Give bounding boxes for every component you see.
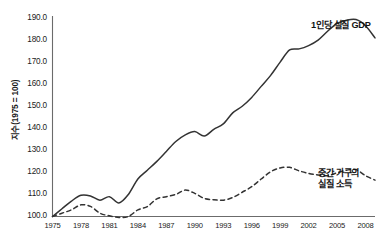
- y-axis-tick-label: 140.0: [17, 123, 47, 132]
- series-annotation-income-line2: 실질 소득: [318, 179, 359, 190]
- x-axis-tick-label: 2008: [353, 221, 379, 230]
- y-axis-tick-label: 170.0: [17, 57, 47, 66]
- x-axis-tick-label: 1975: [40, 221, 66, 230]
- series-annotation-income: 중간 가구의 실질 소득: [318, 168, 359, 189]
- x-axis-tick-label: 1990: [182, 221, 208, 230]
- series-annotation-gdp-text: 1인당 실질 GDP: [311, 20, 371, 30]
- x-axis-tick-label: 1984: [125, 221, 151, 230]
- x-axis-tick-label: 1987: [153, 221, 179, 230]
- x-axis-tick-label: 2002: [296, 221, 322, 230]
- series-annotation-income-line1: 중간 가구의: [318, 168, 359, 179]
- x-axis-tick-label: 1999: [267, 221, 293, 230]
- y-axis-tick-label: 190.0: [17, 13, 47, 22]
- y-axis-tick-label: 100.0: [17, 211, 47, 220]
- x-axis-tick-label: 1981: [96, 221, 122, 230]
- x-axis-tick-label: 1978: [68, 221, 94, 230]
- y-axis-tick-label: 150.0: [17, 101, 47, 110]
- x-axis-tick-label: 1996: [239, 221, 265, 230]
- x-axis-tick-label: 2005: [324, 221, 350, 230]
- x-axis-tick-label: 1993: [210, 221, 236, 230]
- y-axis-title: 지수(1975 = 100): [8, 50, 20, 170]
- y-axis-tick-label: 130.0: [17, 145, 47, 154]
- series-annotation-gdp: 1인당 실질 GDP: [311, 20, 371, 31]
- y-axis-tick-label: 120.0: [17, 167, 47, 176]
- y-axis-tick-label: 180.0: [17, 35, 47, 44]
- chart-container: 100.0110.0120.0130.0140.0150.0160.0170.0…: [0, 0, 387, 246]
- y-axis-tick-label: 160.0: [17, 79, 47, 88]
- y-axis-tick-label: 110.0: [17, 189, 47, 198]
- chart-plot-area: [0, 0, 387, 246]
